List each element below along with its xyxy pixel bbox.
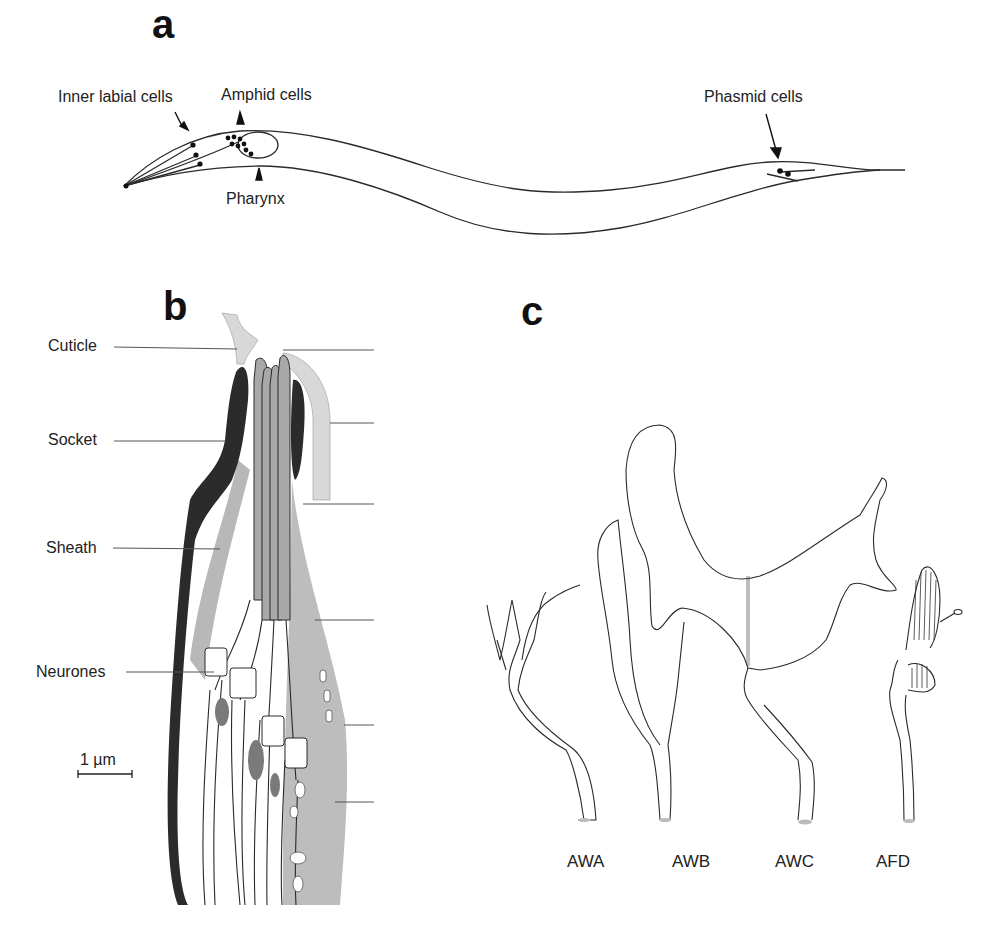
neuron-label-afd: AFD <box>876 853 910 870</box>
neuron-morphologies <box>0 0 992 945</box>
neuron-label-awa: AWA <box>567 853 604 870</box>
neuron-label-awb: AWB <box>672 853 710 870</box>
neuron-label-awc: AWC <box>775 853 814 870</box>
